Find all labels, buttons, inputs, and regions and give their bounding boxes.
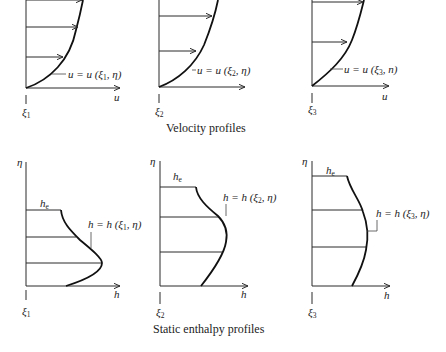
x-axis-label: h [241, 288, 247, 300]
eta-axis-label: η [150, 155, 155, 167]
station-label: ξ2 [155, 105, 164, 119]
curve-label: h = h (ξ2, η) [223, 191, 277, 205]
enthalpy-caption: Static enthalpy profiles [153, 322, 265, 336]
enthalpy-profile-curve [347, 176, 367, 286]
enthalpy-panel-2: η he h = h (ξ2, η) h ξ2 [150, 155, 277, 320]
velocity-panel-3: u = u (ξ3, n) u ξ3 [308, 0, 398, 117]
velocity-panel-2: u = u (ξ2, η) ξ2 [155, 0, 251, 119]
station-label: ξ1 [22, 305, 31, 319]
station-label: ξ3 [308, 306, 317, 320]
enthalpy-panel-3: η he h = h (ξ3, η) h ξ3 [302, 155, 430, 320]
enthalpy-panel-1: η he h = h (ξ1, η) h ξ1 [17, 156, 142, 319]
station-label: ξ1 [22, 106, 31, 120]
edge-enthalpy-label: he [40, 197, 50, 211]
x-axis-label: u [114, 91, 120, 103]
eta-axis-label: η [302, 155, 307, 167]
x-axis-label: u [382, 90, 388, 102]
station-label: ξ2 [156, 306, 165, 320]
velocity-panel-1: u = u (ξ1, η) u ξ1 [22, 0, 122, 120]
curve-label: u = u (ξ3, n) [344, 63, 398, 77]
boundary-layer-profiles-diagram: u = u (ξ1, η) u ξ1 u = u (ξ2, η) ξ2 Velo… [0, 0, 446, 352]
edge-enthalpy-label: he [173, 170, 183, 184]
x-axis-label: h [114, 288, 120, 300]
x-axis-label: h [384, 289, 390, 301]
curve-label: u = u (ξ2, η) [197, 64, 251, 78]
curve-label: h = h (ξ3, η) [376, 207, 430, 221]
label-leader [367, 220, 377, 231]
curve-label: h = h (ξ1, η) [88, 218, 142, 232]
eta-axis-label: η [17, 156, 22, 168]
velocity-caption: Velocity profiles [166, 121, 246, 135]
curve-label: u = u (ξ1, η) [68, 68, 122, 82]
station-label: ξ3 [308, 103, 317, 117]
